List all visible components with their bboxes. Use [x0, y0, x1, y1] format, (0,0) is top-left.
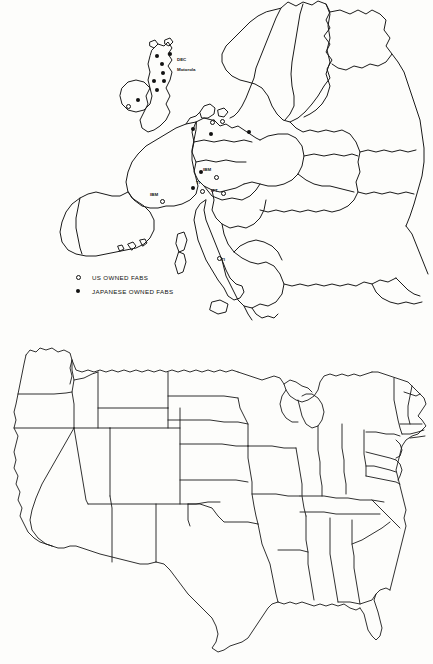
- company-label-dec: DEC: [177, 58, 186, 62]
- map-marker-japanese-fab: [155, 54, 159, 58]
- map-marker-japanese-fab: [136, 98, 140, 102]
- map-marker-us-fab: [220, 119, 225, 124]
- map-marker-japanese-fab: [191, 127, 195, 131]
- map-marker-japanese-fab: [191, 186, 195, 190]
- company-label-ibm-france: IBM: [150, 193, 158, 197]
- company-label-ti-germany: TI: [196, 181, 200, 185]
- europe-legend: US OWNED FABS JAPANESE OWNED FABS: [70, 270, 174, 298]
- usa-map-panel: OR ID UT CO CA AZ NM TX MO OH PA NY VT M…: [0, 332, 433, 664]
- map-marker-japanese-fab: [168, 52, 172, 56]
- map-marker-japanese-fab: [209, 132, 213, 136]
- europe-map-panel: DEC Motorola IBM TI ITT IBM TI US OWNED …: [0, 0, 433, 332]
- map-marker-us-fab: [214, 175, 219, 180]
- legend-label-us-owned-fabs: US OWNED FABS: [92, 274, 148, 281]
- map-marker-japanese-fab: [247, 130, 251, 134]
- europe-map-outline: [0, 0, 433, 332]
- legend-open-circle-icon: [70, 275, 92, 280]
- map-marker-us-fab: [126, 104, 131, 109]
- legend-item-japanese-owned-fabs: JAPANESE OWNED FABS: [70, 284, 174, 298]
- company-label-itt: ITT: [211, 189, 218, 193]
- map-marker-us-fab: [200, 189, 205, 194]
- fab-locations-figure: DEC Motorola IBM TI ITT IBM TI US OWNED …: [0, 0, 433, 664]
- map-marker-japanese-fab: [162, 79, 166, 83]
- usa-map-outline: [0, 332, 433, 664]
- map-marker-us-fab: [160, 199, 165, 204]
- legend-label-japanese-owned-fabs: JAPANESE OWNED FABS: [92, 288, 174, 295]
- legend-filled-circle-icon: [70, 289, 92, 293]
- map-marker-japanese-fab: [161, 71, 165, 75]
- map-marker-japanese-fab: [160, 62, 164, 66]
- map-marker-japanese-fab: [155, 88, 159, 92]
- legend-item-us-owned-fabs: US OWNED FABS: [70, 270, 174, 284]
- map-marker-us-fab: [221, 191, 226, 196]
- company-label-motorola: Motorola: [177, 68, 196, 72]
- company-label-ti-italy: TI: [221, 258, 225, 262]
- company-label-ibm-germany: IBM: [203, 168, 211, 172]
- map-marker-japanese-fab: [152, 79, 156, 83]
- map-marker-us-fab: [210, 120, 215, 125]
